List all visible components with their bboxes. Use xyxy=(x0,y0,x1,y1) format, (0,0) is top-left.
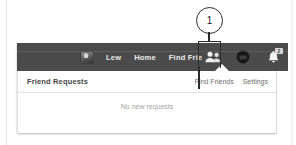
navbar-content: Lew Home Find Friends xyxy=(17,43,288,71)
top-navbar: Lew Home Find Friends xyxy=(17,43,288,71)
messages-icon xyxy=(236,50,250,64)
dropdown-caret xyxy=(215,64,229,71)
dropdown-find-friends-link[interactable]: Find Friends xyxy=(195,78,234,85)
friend-requests-dropdown: Friend Requests Find Friends Settings No… xyxy=(17,71,277,134)
dropdown-settings-link[interactable]: Settings xyxy=(243,78,268,85)
empty-state-text: No new requests xyxy=(121,103,174,110)
dropdown-header: Friend Requests Find Friends Settings xyxy=(18,71,276,93)
notifications-button[interactable]: 2 xyxy=(262,43,284,71)
scan-artifact-right xyxy=(291,0,293,145)
dropdown-title: Friend Requests xyxy=(27,77,88,86)
dropdown-body: No new requests xyxy=(18,93,276,143)
dropdown-actions: Find Friends Settings xyxy=(195,78,268,85)
scan-artifact-left xyxy=(6,0,7,145)
annotation-number: 1 xyxy=(207,16,213,26)
user-avatar-thumbnail-icon[interactable] xyxy=(81,52,93,63)
notification-count-badge: 2 xyxy=(275,48,283,54)
annotation-circle: 1 xyxy=(196,7,223,34)
navbar-profile-name[interactable]: Lew xyxy=(106,53,121,62)
friend-requests-icon xyxy=(205,51,221,63)
nav-link-home[interactable]: Home xyxy=(134,53,156,62)
messages-button[interactable] xyxy=(232,43,254,71)
navbar-left-group: Lew Home Find Friends xyxy=(81,52,216,63)
annotation-stem xyxy=(208,32,210,41)
